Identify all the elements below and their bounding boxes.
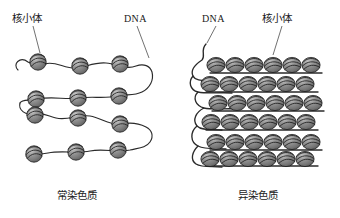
nucleosome-bead (264, 57, 282, 72)
nucleosome-bead (277, 151, 295, 166)
nucleosome-bead (247, 95, 265, 110)
nucleosome-bead (70, 110, 86, 126)
nucleosome-bead (111, 88, 127, 104)
figure-canvas: 核小体 DNA 常染色质 (0, 0, 340, 218)
nucleosome-bead (72, 58, 88, 74)
nucleosome-bead (302, 134, 320, 149)
nucleosome-bead (201, 151, 219, 166)
label-nucleosome-left: 核小体 (12, 12, 43, 24)
nucleosome-bead (296, 76, 314, 91)
nucleosome-bead (209, 95, 227, 110)
nucleosome-bead (220, 151, 238, 166)
nucleosome-bead (239, 151, 257, 166)
nucleosome-bead (283, 134, 301, 149)
caption-euchromatin: 常染色质 (57, 189, 97, 201)
nucleosome-bead (245, 57, 263, 72)
nucleosome-bead (27, 107, 43, 123)
nucleosome-bead (277, 76, 295, 91)
nucleosome-bead (207, 134, 225, 149)
nucleosome-bead (304, 95, 322, 110)
nucleosome-bead (278, 114, 296, 129)
nucleosome-bead (201, 76, 219, 91)
nucleosome-bead (68, 144, 84, 160)
label-dna-left: DNA (124, 13, 147, 24)
chromatin-diagram: 核小体 DNA 常染色质 (0, 0, 340, 218)
nucleosome-bead (221, 114, 239, 129)
nucleosome-bead (245, 134, 263, 149)
nucleosome-bead (207, 57, 225, 72)
nucleosome-bead (258, 151, 276, 166)
label-dna-right: DNA (202, 13, 225, 24)
nucleosome-bead (302, 57, 320, 72)
label-nucleosome-right: 核小体 (262, 12, 293, 24)
nucleosome-bead (30, 54, 46, 70)
nucleosome-bead (240, 114, 258, 129)
nucleosome-bead (239, 76, 257, 91)
nucleosome-bead (283, 57, 301, 72)
caption-heterochromatin: 异染色质 (238, 189, 278, 201)
nucleosome-bead (26, 146, 42, 162)
nucleosome-bead (110, 142, 126, 158)
nucleosome-bead (228, 95, 246, 110)
nucleosome-bead (28, 91, 44, 107)
nucleosome-bead (297, 114, 315, 129)
nucleosome-bead (226, 134, 244, 149)
nucleosome-bead (220, 76, 238, 91)
nucleosome-bead (285, 95, 303, 110)
nucleosome-bead (296, 151, 314, 166)
nucleosome-bead (226, 57, 244, 72)
nucleosome-bead (266, 95, 284, 110)
nucleosome-bead (259, 114, 277, 129)
nucleosome-bead (258, 76, 276, 91)
nucleosome-bead (202, 114, 220, 129)
nucleosome-bead (264, 134, 282, 149)
nucleosome-bead (70, 90, 86, 106)
nucleosome-bead (112, 56, 128, 72)
nucleosome-bead (112, 116, 128, 132)
